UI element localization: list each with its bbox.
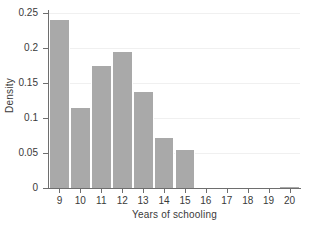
y-axis-title: Density [0, 0, 18, 190]
x-axis-tick [206, 189, 207, 193]
x-axis-tick [164, 189, 165, 193]
x-axis-tick [185, 189, 186, 193]
y-axis-title-text: Density [4, 78, 15, 113]
x-axis-title: Years of schooling [49, 209, 300, 220]
y-axis-tick [43, 188, 48, 189]
y-axis-tick-label: 0.05 [19, 148, 38, 158]
y-axis-tick-label: 0.2 [24, 43, 38, 53]
x-axis-tick [101, 189, 102, 193]
x-axis-tick [143, 189, 144, 193]
x-axis-tick [227, 189, 228, 193]
y-axis-tick-label: 0.25 [19, 8, 38, 18]
x-axis-line [48, 188, 301, 189]
y-axis-tick-label: 0.1 [24, 113, 38, 123]
plot-area [49, 13, 300, 188]
histogram-bar [279, 187, 300, 189]
gridline [49, 48, 300, 49]
x-axis-tick [269, 189, 270, 193]
y-axis-tick [43, 48, 48, 49]
y-axis-tick [43, 153, 48, 154]
y-axis-tick-label: 0 [32, 183, 38, 193]
x-axis-tick [290, 189, 291, 193]
histogram-bar [175, 150, 196, 188]
histogram-bar [49, 20, 70, 188]
histogram-bar [70, 108, 91, 188]
x-axis-tick-label: 20 [278, 195, 302, 206]
y-axis-tick-label: 0.15 [19, 78, 38, 88]
histogram-bar [133, 92, 154, 188]
y-axis-tick [43, 83, 48, 84]
y-axis-tick [43, 118, 48, 119]
histogram-bar [154, 138, 175, 188]
histogram-bar [91, 66, 112, 188]
x-axis-tick [248, 189, 249, 193]
x-axis-tick [59, 189, 60, 193]
histogram-figure: Density 00.050.10.150.20.25 910111213141… [0, 0, 319, 225]
histogram-bar [112, 52, 133, 188]
gridline [49, 13, 300, 14]
gridline [49, 83, 300, 84]
x-axis-tick [122, 189, 123, 193]
y-axis-tick [43, 13, 48, 14]
x-axis-tick [80, 189, 81, 193]
